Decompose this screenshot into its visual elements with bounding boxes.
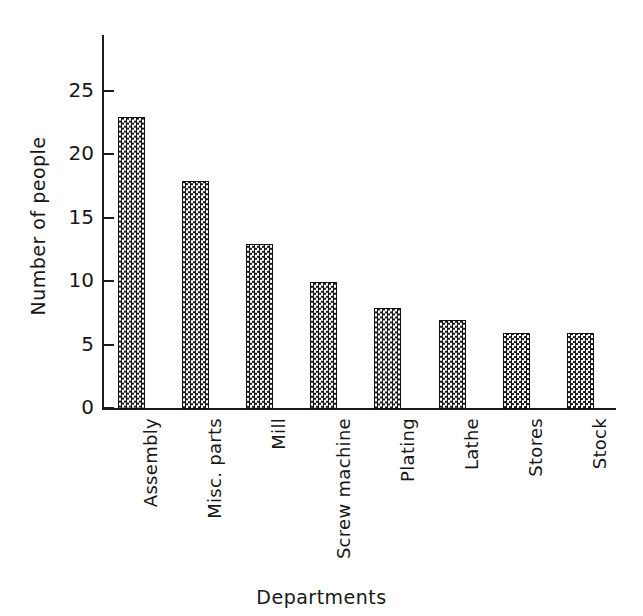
x-category-label: Plating <box>397 418 418 482</box>
bar <box>567 333 594 409</box>
x-category-label: Assembly <box>140 418 161 507</box>
x-category-label: Mill <box>268 418 289 450</box>
y-tick-label: 10 <box>38 270 94 290</box>
plot-area <box>102 35 616 409</box>
x-axis-title: Departments <box>0 586 643 608</box>
bar-chart: Number of people 0510152025 AssemblyMisc… <box>0 0 643 616</box>
bar <box>310 282 337 409</box>
x-category-label: Screw machine <box>333 418 354 559</box>
y-tick-label: 5 <box>38 334 94 354</box>
x-category-label: Stock <box>589 418 610 469</box>
y-tick-label: 0 <box>38 397 94 417</box>
bar <box>182 181 209 409</box>
bar <box>246 244 273 409</box>
bar <box>439 320 466 409</box>
x-category-label: Lathe <box>461 418 482 470</box>
x-category-label: Misc. parts <box>204 418 225 519</box>
y-tick-label: 25 <box>38 80 94 100</box>
bar <box>118 117 145 409</box>
x-category-label: Stores <box>525 418 546 477</box>
bar <box>374 308 401 409</box>
y-tick-label: 15 <box>38 207 94 227</box>
bar <box>503 333 530 409</box>
y-tick-label: 20 <box>38 143 94 163</box>
